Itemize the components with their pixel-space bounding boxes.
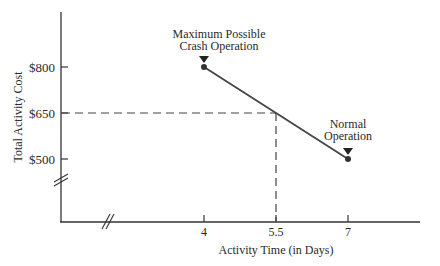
- crash-marker-icon: [199, 56, 209, 63]
- y-label-800: $800: [29, 60, 55, 75]
- chart: $800 $650 $500 4 5.5 7 Activity Time (in…: [0, 0, 440, 266]
- normal-marker-icon: [343, 148, 353, 155]
- x-axis-title: Activity Time (in Days): [218, 243, 333, 257]
- x-label-5.5: 5.5: [269, 225, 284, 239]
- normal-point: [345, 156, 351, 162]
- y-label-500: $500: [29, 152, 55, 167]
- normal-annotation-line2: Operation: [324, 129, 372, 143]
- x-label-7: 7: [345, 225, 351, 239]
- crash-annotation-line2: Crash Operation: [180, 39, 259, 53]
- y-label-650: $650: [29, 106, 55, 121]
- crash-point: [201, 64, 207, 70]
- y-axis-title: Total Activity Cost: [11, 71, 25, 163]
- x-label-4: 4: [201, 225, 207, 239]
